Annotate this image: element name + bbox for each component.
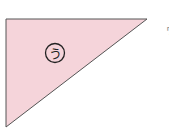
triangle-u bbox=[6, 19, 147, 127]
triangle-label: う bbox=[49, 46, 62, 61]
diagram-canvas: う ヮ bbox=[0, 0, 169, 140]
edge-glyph-partial: ヮ bbox=[165, 23, 169, 37]
